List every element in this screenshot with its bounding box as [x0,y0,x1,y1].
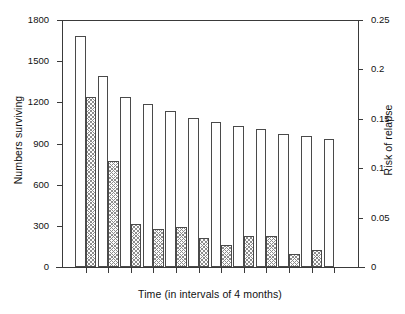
bar-numbers-surviving [188,118,199,267]
bar-risk-of-relapse [86,97,97,267]
bar-risk-of-relapse [266,236,277,267]
bar-group-container [62,20,359,268]
bar-numbers-surviving [278,134,289,267]
x-axis-tick [312,268,313,273]
x-axis-tick [221,268,222,273]
y-axis-left-tick-label: 300 [33,221,49,231]
bar-numbers-surviving [143,104,154,267]
y-axis-right-tick-label: 0.15 [371,114,390,124]
y-axis-right-title: Risk of relapse [382,70,394,210]
bar-numbers-surviving [256,129,267,267]
y-axis-left-tick-label: 600 [33,180,49,190]
y-axis-right-tick-label: 0.1 [371,163,384,173]
x-axis-tick [289,268,290,273]
chart-figure: Numbers surviving Risk of relapse Time (… [0,0,405,314]
x-axis-tick [153,268,154,273]
y-axis-left-title: Numbers surviving [12,70,24,210]
x-axis-tick [199,268,200,273]
y-axis-left-tick-label: 900 [33,139,49,149]
y-axis-left-tick-label: 1500 [28,56,49,66]
y-axis-left-tick-label: 1800 [28,15,49,25]
bar-numbers-surviving [301,136,312,267]
bar-numbers-surviving [233,126,244,267]
bar-risk-of-relapse [176,227,187,268]
plot-area: 0300600900120015001800 00.050.10.150.20.… [62,20,359,268]
bar-numbers-surviving [75,36,86,267]
bar-risk-of-relapse [289,254,300,267]
bar-numbers-surviving [120,97,131,267]
bar-numbers-surviving [165,111,176,267]
bar-numbers-surviving [324,139,335,267]
x-axis-title: Time (in intervals of 4 months) [60,288,360,300]
bar-risk-of-relapse [108,161,119,267]
x-axis-tick [108,268,109,273]
x-axis-tick [334,268,335,273]
bar-risk-of-relapse [199,238,210,267]
bar-risk-of-relapse [131,224,142,267]
y-axis-right-tick-label: 0.05 [371,213,390,223]
x-axis-tick [244,268,245,273]
bar-numbers-surviving [211,122,222,267]
x-axis-tick [86,268,87,273]
y-axis-right-tick-label: 0.25 [371,15,390,25]
bar-numbers-surviving [98,76,109,267]
y-axis-right-tick-label: 0.2 [371,64,384,74]
y-axis-left-tick-label: 0 [44,262,49,272]
x-axis-tick [266,268,267,273]
x-axis-tick [131,268,132,273]
bar-risk-of-relapse [244,236,255,267]
bar-risk-of-relapse [153,229,164,267]
bar-risk-of-relapse [221,245,232,267]
x-axis-tick [176,268,177,273]
y-axis-left-tick-label: 1200 [28,97,49,107]
y-axis-right-tick-label: 0 [371,262,376,272]
bar-risk-of-relapse [312,250,323,267]
